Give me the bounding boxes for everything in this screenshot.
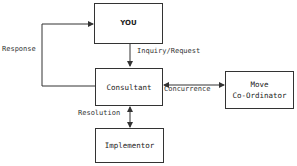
node-implementor: Implementor: [95, 128, 164, 163]
node-move-coordinator: Move Co-Ordinator: [225, 71, 294, 109]
node-consultant: Consultant: [95, 68, 163, 106]
node-consultant-label: Consultant: [106, 82, 151, 93]
node-you: YOU: [94, 3, 163, 44]
edge-label-response: Response: [2, 45, 36, 54]
node-move-coordinator-line1: Move: [250, 79, 268, 90]
node-you-label: YOU: [120, 18, 136, 29]
node-move-coordinator-line2: Co-Ordinator: [232, 90, 286, 101]
edge-label-concurrence: Concurrence: [164, 85, 210, 94]
response-arrow: [42, 24, 95, 86]
node-implementor-label: Implementor: [105, 140, 155, 151]
edge-label-inquiry: Inquiry/Request: [137, 47, 200, 56]
edge-label-resolution: Resolution: [78, 109, 120, 118]
